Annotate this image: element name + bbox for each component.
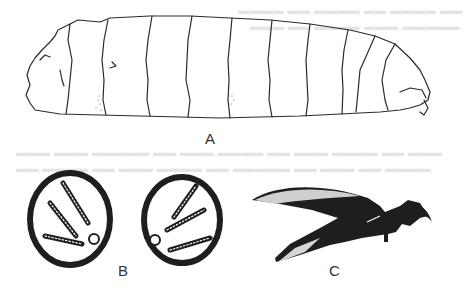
left-spiracle — [30, 173, 110, 265]
larva-lateral-view-drawing — [26, 16, 430, 118]
figure-drawing — [0, 0, 463, 291]
right-spiracle — [144, 177, 220, 263]
larva-stipple — [95, 95, 234, 110]
panel-label-b: B — [118, 262, 128, 279]
panel-label-a: A — [205, 130, 215, 147]
cephalopharyngeal-skeleton-drawing — [252, 187, 432, 262]
posterior-spiracles-drawing — [30, 173, 220, 265]
panel-label-c: C — [329, 262, 340, 279]
